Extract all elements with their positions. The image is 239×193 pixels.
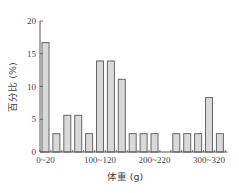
histogram-chart: 05101520 0~20100~120200~220300~320 百分比 (… (0, 0, 239, 193)
x-tick-label: 200~220 (139, 155, 171, 165)
x-axis-title: 体重 (g) (107, 171, 143, 182)
bar-80~100 (86, 134, 93, 152)
bar-200~220 (151, 134, 158, 152)
bar-140~160 (118, 79, 125, 152)
bar-60~80 (75, 115, 82, 152)
x-tick-label: 300~320 (193, 155, 225, 165)
bar-100~120 (97, 61, 104, 152)
bar-20~40 (53, 134, 60, 152)
bars-group (42, 43, 223, 152)
bar-320~340 (216, 134, 223, 152)
x-tick-label: 0~20 (36, 155, 55, 165)
bar-160~180 (129, 134, 136, 152)
bar-120~140 (107, 61, 114, 152)
y-tick-label: 15 (27, 49, 37, 59)
x-tick-label: 100~120 (84, 155, 116, 165)
y-ticks-group: 05101520 (27, 16, 43, 157)
bar-240~260 (173, 134, 180, 152)
x-ticks-group: 0~20100~120200~220300~320 (36, 155, 225, 165)
y-axis-title: 百分比 (%) (7, 62, 18, 111)
bar-180~200 (140, 134, 147, 152)
bar-40~60 (64, 115, 71, 152)
bar-300~320 (206, 98, 213, 152)
y-tick-label: 10 (27, 82, 37, 92)
y-tick-label: 20 (27, 16, 37, 26)
bar-0~20 (42, 43, 49, 152)
bar-260~280 (184, 134, 191, 152)
y-tick-label: 5 (32, 114, 37, 124)
bar-280~300 (195, 134, 202, 152)
